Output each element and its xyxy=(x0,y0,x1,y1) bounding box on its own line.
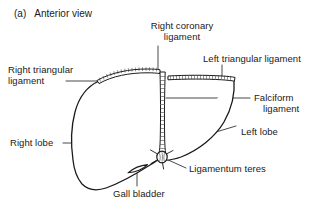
label-right-triangular-ligament: Right triangular ligament xyxy=(8,64,94,86)
left-triangular-ligament-band xyxy=(168,75,235,81)
label-right-triangular-ligament-line1: Right triangular xyxy=(8,64,94,75)
label-falciform-ligament-line2: ligament xyxy=(263,103,322,114)
liver-anterior-view-figure: (a)Anterior view xyxy=(0,0,325,214)
label-falciform-ligament: Falciform ligament xyxy=(254,92,322,114)
right-lobe-outline xyxy=(72,81,160,190)
label-right-lobe: Right lobe xyxy=(10,137,53,148)
label-ligamentum-teres: Ligamentum teres xyxy=(189,163,266,174)
label-left-lobe: Left lobe xyxy=(241,126,278,137)
label-gall-bladder: Gall bladder xyxy=(113,188,165,199)
left-lobe-outline xyxy=(163,79,234,160)
label-right-triangular-ligament-line2: ligament xyxy=(8,75,94,86)
label-right-coronary-ligament: Right coronary ligament xyxy=(140,20,224,42)
label-falciform-ligament-line1: Falciform xyxy=(254,92,322,103)
label-left-triangular-ligament: Left triangular ligament xyxy=(203,53,301,64)
label-right-coronary-ligament-line2: ligament xyxy=(140,31,224,42)
label-right-coronary-ligament-line1: Right coronary xyxy=(140,20,224,31)
